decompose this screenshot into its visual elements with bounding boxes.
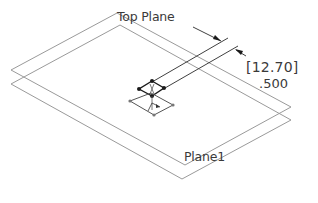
origin-triad-icon	[148, 103, 160, 111]
extension-line-upper	[152, 38, 228, 82]
sketch-square-upper[interactable]	[137, 79, 166, 98]
dimension-arrowhead-lower	[235, 49, 243, 55]
dimension-value-primary[interactable]: [12.70]	[246, 60, 298, 74]
extension-line-lower	[165, 46, 238, 88]
top-plane-label[interactable]: Top Plane	[117, 11, 175, 24]
plane1-label[interactable]: Plane1	[184, 151, 225, 164]
dimension-value-secondary[interactable]: .500	[259, 77, 288, 90]
dimension-arrowhead-upper	[213, 35, 221, 41]
plane1-outline[interactable]	[11, 25, 291, 179]
cad-viewport[interactable]	[0, 0, 318, 203]
